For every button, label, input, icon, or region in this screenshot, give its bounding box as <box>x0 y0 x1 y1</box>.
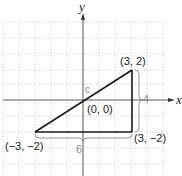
origin-label: (0, 0) <box>87 103 113 115</box>
vertex-label-top: (3, 2) <box>120 55 146 67</box>
y-axis-label: y <box>77 0 85 14</box>
vertical-length-label: 4 <box>143 93 149 105</box>
vertex-label-bottom-left: (−3, −2) <box>5 140 44 152</box>
vertical-brace <box>135 70 143 132</box>
x-axis-label: x <box>175 92 182 107</box>
hypotenuse <box>35 70 132 132</box>
horizontal-brace <box>35 134 132 142</box>
horizontal-length-label: 6 <box>76 143 82 155</box>
coordinate-plane: x y (3, 2) (3, −2) (−3, −2) (0, 0) c 4 6 <box>0 0 182 176</box>
hypotenuse-label: c <box>85 84 90 95</box>
right-triangle <box>35 70 132 132</box>
vertex-label-bottom-right: (3, −2) <box>134 132 166 144</box>
